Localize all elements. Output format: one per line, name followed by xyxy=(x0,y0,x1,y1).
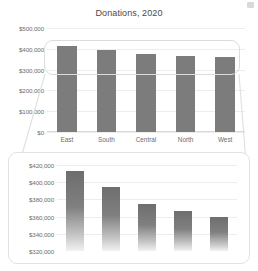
bar-south xyxy=(97,50,117,132)
x-axis-tick-label: South xyxy=(87,136,127,143)
bar-west xyxy=(215,57,235,132)
overview-plot-area xyxy=(47,28,245,132)
overview-x-axis: EastSouthCentralNorthWest xyxy=(47,134,245,146)
y-axis-tick-label: $200,000 xyxy=(19,87,44,94)
y-axis-tick-label: $400,000 xyxy=(29,179,54,186)
y-axis-tick-label: $500,000 xyxy=(19,25,44,32)
bar-east xyxy=(57,46,77,132)
zoomed-y-axis: $320,000$340,000$360,000$380,000$400,000… xyxy=(11,165,54,251)
gridline xyxy=(47,49,245,50)
y-axis-tick-label: $360,000 xyxy=(29,213,54,220)
y-axis-tick-label: $100,000 xyxy=(19,108,44,115)
y-axis-tick-label: $340,000 xyxy=(29,230,54,237)
zoomed-plot-area xyxy=(57,165,237,251)
bar-central xyxy=(136,54,156,132)
overview-y-axis: $0$100,000$200,000$300,000$400,000$500,0… xyxy=(2,28,44,132)
bar-north xyxy=(176,56,196,132)
gridline xyxy=(57,182,237,183)
y-axis-tick-label: $300,000 xyxy=(19,66,44,73)
gridline xyxy=(57,199,237,200)
y-axis-tick-label: $380,000 xyxy=(29,196,54,203)
zoomed-chart: $320,000$340,000$360,000$380,000$400,000… xyxy=(8,152,250,264)
y-axis-tick-label: $400,000 xyxy=(19,45,44,52)
bar-central xyxy=(138,204,156,251)
y-axis-tick-label: $0 xyxy=(37,129,44,136)
x-axis-tick-label: West xyxy=(205,136,245,143)
x-axis-tick-label: North xyxy=(166,136,206,143)
bar-south xyxy=(102,187,120,251)
gridline xyxy=(47,28,245,29)
bar-west xyxy=(210,217,228,251)
x-axis-tick-label: East xyxy=(47,136,87,143)
overview-chart: Donations, 2020 $0$100,000$200,000$300,0… xyxy=(0,0,258,152)
bar-north xyxy=(174,211,192,251)
gridline xyxy=(57,165,237,166)
page-title: Donations, 2020 xyxy=(0,8,258,18)
y-axis-tick-label: $420,000 xyxy=(29,162,54,169)
bar-east xyxy=(66,171,84,251)
corner-artifact-icon xyxy=(247,2,254,8)
x-axis-tick-label: Central xyxy=(126,136,166,143)
y-axis-tick-label: $320,000 xyxy=(29,248,54,255)
gridline xyxy=(47,132,245,133)
